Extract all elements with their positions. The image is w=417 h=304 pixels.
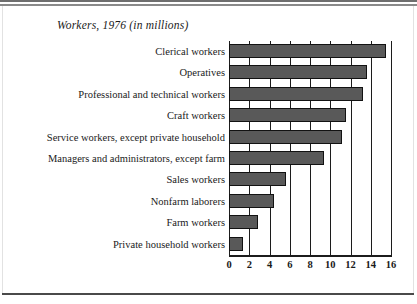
chart-title: Workers, 1976 (in millions) xyxy=(57,19,188,31)
category-label: Private household workers xyxy=(5,239,225,251)
page-rule-top-secondary xyxy=(0,4,417,6)
bar xyxy=(229,44,386,58)
category-label: Operatives xyxy=(5,67,225,79)
category-label: Service workers, except private househol… xyxy=(5,132,225,144)
page-rule-right xyxy=(413,6,414,293)
tick-label-14: 14 xyxy=(366,259,377,270)
bar xyxy=(229,172,286,186)
category-label: Farm workers xyxy=(5,217,225,229)
gridline-16 xyxy=(391,41,392,255)
x-axis-tick-labels: 0246810121416 xyxy=(229,259,409,275)
bar xyxy=(229,194,274,208)
tick-label-0: 0 xyxy=(226,259,231,270)
tick-label-8: 8 xyxy=(307,259,312,270)
bar-row xyxy=(229,212,391,233)
bar xyxy=(229,215,258,229)
bar xyxy=(229,151,324,165)
bar-row xyxy=(229,62,391,83)
bar-row xyxy=(229,191,391,212)
bar-row xyxy=(229,127,391,148)
category-label: Managers and administrators, except farm xyxy=(5,153,225,165)
category-label: Nonfarm laborers xyxy=(5,196,225,208)
bar-row xyxy=(229,169,391,190)
bar xyxy=(229,237,243,251)
category-label: Clerical workers xyxy=(5,46,225,58)
bar-row xyxy=(229,84,391,105)
category-label: Professional and technical workers xyxy=(5,89,225,101)
x-axis-line xyxy=(229,255,392,257)
page-rule-bottom xyxy=(2,293,414,295)
bar-row xyxy=(229,105,391,126)
bar xyxy=(229,87,363,101)
chart-plot-area xyxy=(229,41,391,255)
category-axis-labels: Clerical workersOperativesProfessional a… xyxy=(3,41,225,255)
bar xyxy=(229,130,342,144)
tick-label-16: 16 xyxy=(386,259,397,270)
tick-label-2: 2 xyxy=(247,259,252,270)
bar-row xyxy=(229,234,391,255)
tick-label-6: 6 xyxy=(287,259,292,270)
category-label: Sales workers xyxy=(5,174,225,186)
bar-row xyxy=(229,41,391,62)
bar xyxy=(229,65,367,79)
bar-row xyxy=(229,148,391,169)
page-rule-top xyxy=(0,0,417,2)
tick-label-4: 4 xyxy=(267,259,272,270)
bar xyxy=(229,108,346,122)
category-label: Craft workers xyxy=(5,110,225,122)
tick-label-12: 12 xyxy=(345,259,356,270)
tick-label-10: 10 xyxy=(325,259,336,270)
